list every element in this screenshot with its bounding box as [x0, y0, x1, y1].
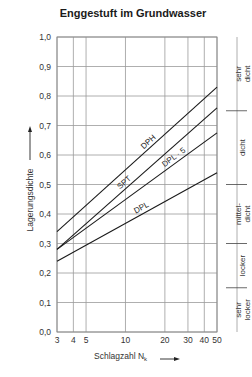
- svg-text:Schlagzahl Nk: Schlagzahl Nk: [94, 351, 148, 362]
- x-tick-label: 30: [183, 335, 193, 345]
- x-tick-label: 20: [160, 335, 170, 345]
- zone-label: locker: [238, 255, 247, 277]
- y-tick-label: 0,2: [39, 268, 51, 278]
- y-tick-label: 0,5: [39, 180, 51, 190]
- series-label: DPL: [132, 200, 150, 216]
- series-line: [57, 108, 217, 250]
- series-line: [57, 133, 217, 250]
- series-line: [57, 173, 217, 262]
- y-tick-label: 0,3: [39, 239, 51, 249]
- x-axis-title: Schlagzahl N: [94, 351, 144, 361]
- zone-label: mittel-dicht: [234, 203, 252, 225]
- y-tick-label: 0,1: [39, 298, 51, 308]
- y-tick-label: 0,4: [39, 209, 51, 219]
- x-tick-label: 3: [55, 335, 60, 345]
- zone-label: sehrdicht: [234, 65, 252, 83]
- y-tick-label: 0,9: [39, 62, 51, 72]
- chart: Enggestuft im Grundwasser DPHSPTDPL · 5D…: [0, 0, 252, 377]
- x-tick-label: 5: [84, 335, 89, 345]
- zone-label: sehrlocker: [234, 299, 252, 321]
- axis-ticks: 0,00,10,20,30,40,50,60,70,80,91,03451020…: [39, 32, 222, 345]
- density-zones: sehrdichtdichtmittel-dichtlockersehrlock…: [226, 65, 252, 321]
- y-tick-label: 0,0: [39, 327, 51, 337]
- y-axis-title: Lagerungsdichte: [25, 168, 35, 231]
- y-axis-label: Lagerungsdichte: [25, 126, 35, 231]
- x-tick-label: 40: [200, 335, 210, 345]
- y-tick-label: 0,8: [39, 91, 51, 101]
- x-axis-subscript: k: [144, 356, 148, 362]
- x-tick-label: 4: [71, 335, 76, 345]
- y-arrowhead-icon: [28, 126, 32, 132]
- x-arrowhead-icon: [174, 357, 180, 361]
- x-axis-label: Schlagzahl Nk: [94, 351, 180, 362]
- zone-label: dicht: [238, 138, 247, 156]
- x-tick-label: 10: [121, 335, 131, 345]
- y-tick-label: 0,7: [39, 121, 51, 131]
- y-tick-label: 0,6: [39, 150, 51, 160]
- chart-title: Enggestuft im Grundwasser: [60, 7, 207, 19]
- series-label: DPH: [139, 133, 158, 151]
- x-tick-label: 50: [212, 335, 222, 345]
- y-tick-label: 1,0: [39, 32, 51, 42]
- data-series: DPHSPTDPL · 5DPL: [57, 87, 217, 261]
